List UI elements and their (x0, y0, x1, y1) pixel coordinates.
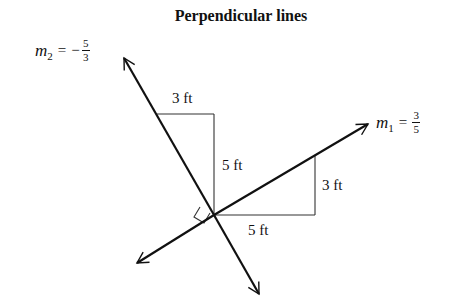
numerator: 3 (414, 110, 420, 121)
equals-sign: = (58, 42, 66, 59)
numerator: 5 (83, 38, 89, 49)
slope-label-m2: m2 = − 5 3 (35, 38, 90, 63)
upper-rise-label: 5 ft (222, 157, 242, 174)
slope-subscript: 2 (47, 50, 53, 62)
right-angle-marker (194, 207, 210, 223)
lower-rise-label: 3 ft (322, 177, 342, 194)
minus-sign: − (71, 42, 79, 59)
slope-subscript: 1 (388, 122, 394, 134)
lower-run-label: 5 ft (248, 222, 268, 239)
slope-label-m1: m1 = 3 5 (376, 110, 420, 135)
upper-run-label: 3 ft (172, 90, 192, 107)
slope-fraction: 3 5 (412, 110, 420, 135)
slope-symbol: m (376, 113, 388, 133)
line-m1-lower (137, 215, 214, 263)
diagram-title: Perpendicular lines (0, 7, 464, 25)
denominator: 5 (414, 124, 420, 135)
denominator: 3 (83, 52, 89, 63)
slope-fraction: 5 3 (82, 38, 90, 63)
slope-symbol: m (35, 41, 47, 61)
line-m2-upper (124, 58, 214, 215)
equals-sign: = (399, 114, 407, 131)
